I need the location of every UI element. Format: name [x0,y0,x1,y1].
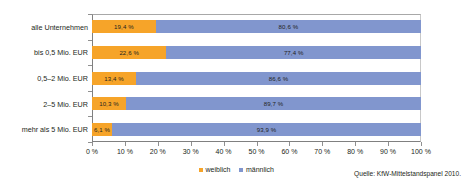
x-axis: 0 %10 %20 %30 %40 %50 %60 %70 %80 %90 %1… [92,142,421,143]
bar-row: 22,6 %77,4 % [92,46,421,59]
category-label: alle Unternehmen [0,23,88,32]
y-axis-tick [88,40,92,41]
x-axis-tick [191,142,192,146]
x-axis-tick [355,142,356,146]
bar-segment-weiblich: 19,4 % [92,20,156,33]
legend-label-maennlich: männlich [246,166,274,173]
bar-segment-weiblich: 10,3 % [92,97,126,110]
y-axis-tick [88,65,92,66]
legend-item-maennlich[interactable]: männlich [239,166,274,173]
category-label: 0,5–2 Mio. EUR [0,74,88,83]
bar-segment-maennlich: 86,6 % [136,72,421,85]
x-axis-tick [421,142,422,146]
y-axis-tick [88,91,92,92]
legend-swatch-maennlich [239,168,243,172]
bar-row: 19,4 %80,6 % [92,20,421,33]
x-axis-label: 100 % [401,148,441,155]
bar-segment-maennlich: 80,6 % [156,20,421,33]
category-label: 2–5 Mio. EUR [0,100,88,109]
bar-segment-weiblich: 13,4 % [92,72,136,85]
x-axis-tick [289,142,290,146]
bar-row: 13,4 %86,6 % [92,72,421,85]
bar-segment-maennlich: 93,9 % [112,123,421,136]
x-axis-tick [224,142,225,146]
legend-label-weiblich: weiblich [206,166,231,173]
x-axis-tick [322,142,323,146]
source-note: Quelle: KfW-Mittelstandspanel 2010. [354,170,461,177]
x-axis-tick [92,142,93,146]
bar-segment-maennlich: 89,7 % [126,97,421,110]
category-label: mehr als 5 Mio. EUR [0,125,88,134]
category-label: bis 0,5 Mio. EUR [0,48,88,57]
x-axis-tick [257,142,258,146]
chart-figure: alle Unternehmenbis 0,5 Mio. EUR0,5–2 Mi… [0,0,473,193]
bar-segment-weiblich: 6,1 % [92,123,112,136]
x-axis-tick [158,142,159,146]
x-axis-tick [125,142,126,146]
y-axis-tick [88,14,92,15]
bar-row: 10,3 %89,7 % [92,97,421,110]
y-axis-tick [88,116,92,117]
legend-item-weiblich[interactable]: weiblich [199,166,230,173]
bar-segment-maennlich: 77,4 % [166,46,421,59]
x-axis-tick [388,142,389,146]
legend-swatch-weiblich [199,168,203,172]
bar-segment-weiblich: 22,6 % [92,46,166,59]
bar-row: 6,1 %93,9 % [92,123,421,136]
